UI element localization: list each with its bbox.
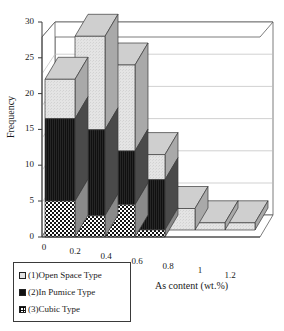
x-tick-1: 1 [189, 266, 211, 275]
x-tick-0.4: 0.4 [95, 252, 117, 261]
legend-item-open-space[interactable]: (1)Open Space Type [19, 267, 130, 284]
x-tick-0: 0 [33, 243, 55, 252]
bar-bin-1 [45, 57, 88, 237]
legend-swatch-cubic-icon [19, 306, 26, 313]
y-tick-10: 10 [14, 160, 34, 169]
x-tick-0.2: 0.2 [64, 247, 86, 256]
legend-item-in-pumice[interactable]: (2)In Pumice Type [19, 284, 130, 301]
legend-item-cubic[interactable]: (3)Cubic Type [19, 301, 130, 318]
chart-container: 30 25 20 15 10 5 0 0 0.2 0.4 0.6 0.8 1 1… [0, 0, 284, 331]
legend-label-open-space: (1)Open Space Type [28, 271, 102, 280]
x-axis-title: As content (wt.%) [155, 281, 228, 291]
legend-swatch-in-pumice-icon [19, 289, 26, 296]
legend-label-in-pumice: (2)In Pumice Type [28, 288, 95, 297]
y-tick-15: 15 [14, 124, 34, 133]
x-tick-0.8: 0.8 [157, 262, 179, 271]
y-tick-0: 0 [14, 232, 34, 241]
y-axis-title: Frequency [6, 85, 16, 149]
x-tick-1.2: 1.2 [219, 271, 241, 280]
y-tick-25: 25 [14, 53, 34, 62]
y-tick-30: 30 [14, 17, 34, 26]
legend-swatch-open-space-icon [19, 272, 26, 279]
legend-label-cubic: (3)Cubic Type [28, 305, 80, 314]
y-tick-20: 20 [14, 89, 34, 98]
y-tick-5: 5 [14, 196, 34, 205]
y-axis [38, 22, 42, 237]
chart-legend: (1)Open Space Type (2)In Pumice Type (3)… [13, 262, 131, 322]
